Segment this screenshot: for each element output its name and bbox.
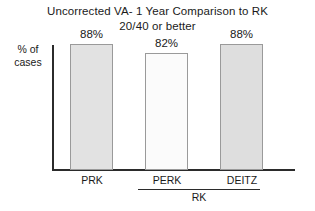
bar-prk — [70, 44, 113, 170]
bar-value-prk: 88% — [70, 28, 113, 40]
bar-deitz — [220, 44, 263, 170]
category-label-prk: PRK — [66, 174, 118, 186]
category-label-deitz: DEITZ — [216, 174, 268, 186]
bar-value-perk: 82% — [145, 37, 188, 49]
bar-value-deitz: 88% — [220, 28, 263, 40]
plot-area: 88% 82% 88% — [0, 0, 315, 170]
bar-perk — [145, 53, 188, 170]
category-label-perk: PERK — [141, 174, 193, 186]
group-bracket-label: RK — [138, 191, 260, 203]
group-bracket-line — [138, 189, 260, 190]
bar-chart: Uncorrected VA- 1 Year Comparison to RK … — [0, 0, 315, 211]
